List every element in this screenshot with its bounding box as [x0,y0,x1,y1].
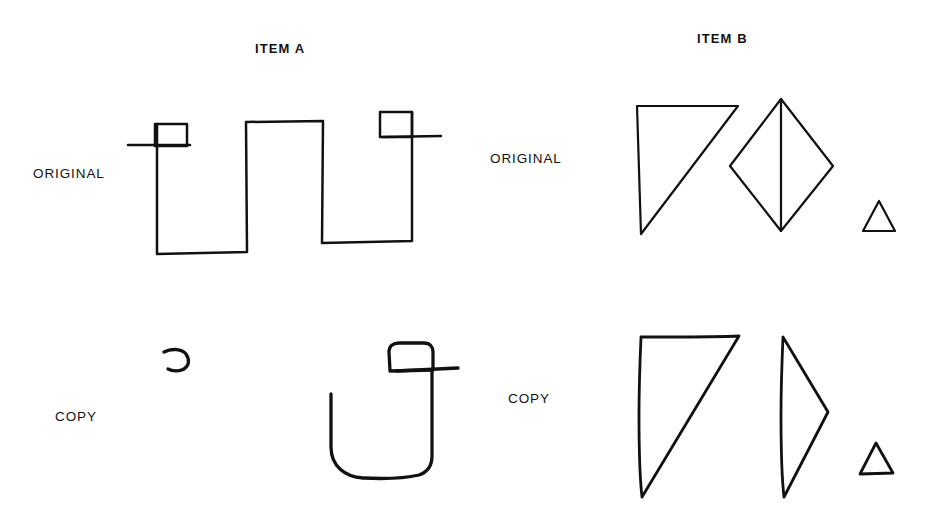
ink-stroke-0 [164,350,188,371]
drawing-item-a-original [0,0,480,300]
item-a-original-strokes [128,112,441,254]
ink-stroke-3 [396,368,458,371]
item-b-original-strokes [637,99,895,234]
ink-stroke-2 [860,443,893,474]
drawing-item-b-copy [480,300,933,511]
drawing-item-a-copy [0,300,480,511]
ink-stroke-0 [639,336,739,497]
ink-stroke-3 [863,201,895,231]
ink-stroke-1 [781,337,828,497]
item-a-copy-strokes [164,343,458,478]
ink-stroke-4 [383,136,441,137]
item-b-copy-strokes [639,336,893,497]
ink-stroke-2 [389,343,433,371]
ink-stroke-1 [331,370,432,478]
drawing-item-b-original [480,0,933,300]
figure-canvas: ITEM A ITEM B ORIGINAL COPY ORIGINAL COP… [0,0,933,511]
ink-stroke-0 [637,106,738,234]
ink-stroke-3 [380,112,412,137]
ink-stroke-1 [155,124,187,146]
ink-stroke-0 [157,112,412,254]
